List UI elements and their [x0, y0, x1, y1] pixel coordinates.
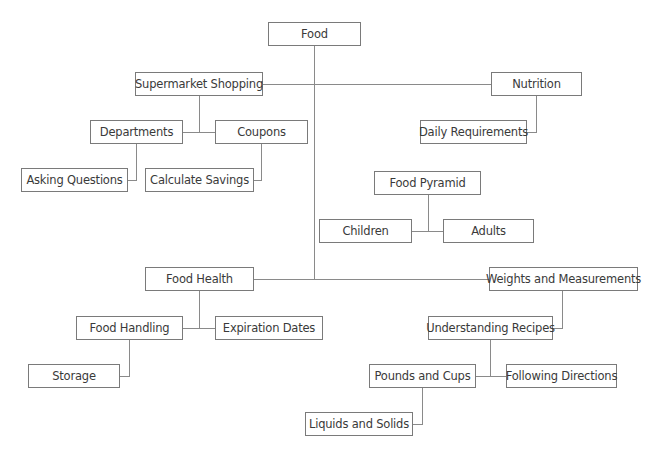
node-adults: Adults [443, 219, 534, 243]
connector-line [314, 46, 315, 279]
node-nutrition: Nutrition [491, 72, 582, 96]
node-weights-and-measurements: Weights and Measurements [489, 267, 638, 291]
connector-line [536, 96, 537, 132]
node-understanding-recipes: Understanding Recipes [428, 316, 553, 340]
connector-line [413, 424, 423, 425]
connector-line [490, 340, 491, 376]
connector-line [199, 96, 200, 132]
connector-line [129, 340, 130, 376]
node-asking-questions: Asking Questions [21, 168, 128, 192]
node-food-pyramid: Food Pyramid [374, 171, 481, 195]
connector-line [261, 144, 262, 180]
node-coupons: Coupons [215, 120, 308, 144]
node-children: Children [319, 219, 412, 243]
node-following-directions: Following Directions [506, 364, 617, 388]
node-storage: Storage [28, 364, 120, 388]
node-food: Food [268, 22, 361, 46]
node-pounds-and-cups: Pounds and Cups [369, 364, 476, 388]
connector-line [120, 376, 130, 377]
node-calculate-savings: Calculate Savings [145, 168, 254, 192]
connector-line [412, 231, 443, 232]
node-expiration-dates: Expiration Dates [215, 316, 323, 340]
node-supermarket-shopping: Supermarket Shopping [135, 72, 263, 96]
connector-line [254, 279, 489, 280]
connector-line [428, 195, 429, 231]
node-liquids-and-solids: Liquids and Solids [305, 412, 413, 436]
connector-line [183, 132, 215, 133]
connector-line [128, 180, 137, 181]
node-food-health: Food Health [145, 267, 254, 291]
connector-line [476, 376, 506, 377]
connector-line [263, 84, 491, 85]
connector-line [199, 291, 200, 328]
connector-line [527, 132, 537, 133]
node-departments: Departments [90, 120, 183, 144]
hierarchy-diagram: Food Supermarket Shopping Nutrition Depa… [0, 0, 656, 454]
connector-line [254, 180, 262, 181]
connector-line [183, 328, 215, 329]
node-food-handling: Food Handling [76, 316, 183, 340]
connector-line [422, 388, 423, 424]
connector-line [136, 144, 137, 180]
node-daily-requirements: Daily Requirements [420, 120, 527, 144]
connector-line [562, 291, 563, 328]
